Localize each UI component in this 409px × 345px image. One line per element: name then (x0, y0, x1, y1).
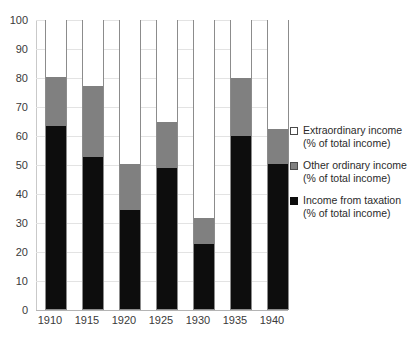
bar-segment-taxation-1915 (83, 157, 103, 309)
legend-label-extraordinary-income: Extraordinary income (% of total income) (303, 124, 402, 150)
bar-segment-extraordinary-1935 (231, 19, 251, 78)
bar-segment-extraordinary-1910 (46, 19, 66, 77)
gridline-0 (36, 310, 288, 311)
bar-segment-other-1920 (120, 164, 140, 210)
x-tick-label-1910: 1910 (31, 314, 69, 326)
bar-group-1915[interactable] (82, 20, 104, 310)
bar-stack-1930[interactable] (193, 20, 215, 310)
bar-stack-1935[interactable] (230, 20, 252, 310)
bar-segment-other-1940 (268, 129, 288, 164)
square-outline-icon (290, 127, 298, 135)
bar-segment-taxation-1910 (46, 126, 66, 309)
x-tick-label-1930: 1930 (179, 314, 217, 326)
legend-item-extraordinary-income[interactable]: Extraordinary income (% of total income) (290, 124, 409, 150)
bar-group-1930[interactable] (193, 20, 215, 310)
y-tick-label-10: 10 (0, 276, 28, 287)
bar-group-1935[interactable] (230, 20, 252, 310)
bar-segment-other-1910 (46, 77, 66, 126)
chart-legend: Extraordinary income (% of total income)… (290, 124, 409, 229)
bar-group-1940[interactable] (267, 20, 289, 310)
y-tick-label-80: 80 (0, 73, 28, 84)
legend-item-other-ordinary-income[interactable]: Other ordinary income (% of total income… (290, 159, 409, 185)
y-tick-label-40: 40 (0, 189, 28, 200)
x-tick-label-1915: 1915 (68, 314, 106, 326)
y-tick-label-100: 100 (0, 15, 28, 26)
x-tick-label-1925: 1925 (142, 314, 180, 326)
bar-segment-extraordinary-1925 (157, 19, 177, 122)
legend-label-line1: Income from taxation (303, 194, 401, 206)
y-tick-label-90: 90 (0, 44, 28, 55)
bar-stack-1915[interactable] (82, 20, 104, 310)
square-black-icon (290, 197, 298, 205)
legend-label-line1: Other ordinary income (303, 159, 407, 171)
y-tick-label-70: 70 (0, 102, 28, 113)
legend-label-other-ordinary-income: Other ordinary income (% of total income… (303, 159, 407, 185)
bar-segment-other-1930 (194, 218, 214, 244)
bars-layer (36, 20, 288, 310)
stacked-bar-chart: 0 10 20 30 40 50 60 70 80 90 100 (0, 0, 409, 345)
bar-segment-other-1935 (231, 78, 251, 136)
bar-segment-extraordinary-1930 (194, 19, 214, 218)
legend-label-line1: Extraordinary income (303, 124, 402, 136)
bar-group-1920[interactable] (119, 20, 141, 310)
bar-group-1910[interactable] (45, 20, 67, 310)
plot-area (36, 20, 288, 310)
bar-segment-other-1915 (83, 86, 103, 157)
bar-segment-taxation-1925 (157, 168, 177, 309)
legend-label-line2: (% of total income) (303, 137, 402, 150)
bar-stack-1925[interactable] (156, 20, 178, 310)
bar-segment-taxation-1920 (120, 210, 140, 309)
square-gray-icon (290, 162, 298, 170)
y-tick-label-20: 20 (0, 247, 28, 258)
bar-segment-taxation-1935 (231, 136, 251, 309)
x-tick-label-1920: 1920 (105, 314, 143, 326)
legend-item-income-from-taxation[interactable]: Income from taxation (% of total income) (290, 194, 409, 220)
bar-segment-taxation-1930 (194, 244, 214, 309)
legend-label-line2: (% of total income) (303, 172, 407, 185)
bar-segment-extraordinary-1915 (83, 19, 103, 86)
x-tick-label-1940: 1940 (253, 314, 291, 326)
y-tick-label-30: 30 (0, 218, 28, 229)
legend-label-line2: (% of total income) (303, 207, 401, 220)
bar-segment-extraordinary-1940 (268, 19, 288, 129)
bar-stack-1920[interactable] (119, 20, 141, 310)
bar-segment-extraordinary-1920 (120, 19, 140, 164)
bar-group-1925[interactable] (156, 20, 178, 310)
bar-segment-other-1925 (157, 122, 177, 168)
y-tick-label-60: 60 (0, 131, 28, 142)
x-tick-label-1935: 1935 (216, 314, 254, 326)
y-tick-label-50: 50 (0, 160, 28, 171)
bar-stack-1940[interactable] (267, 20, 289, 310)
bar-segment-taxation-1940 (268, 164, 288, 309)
y-tick-label-0: 0 (0, 305, 28, 316)
bar-stack-1910[interactable] (45, 20, 67, 310)
legend-label-income-from-taxation: Income from taxation (% of total income) (303, 194, 401, 220)
